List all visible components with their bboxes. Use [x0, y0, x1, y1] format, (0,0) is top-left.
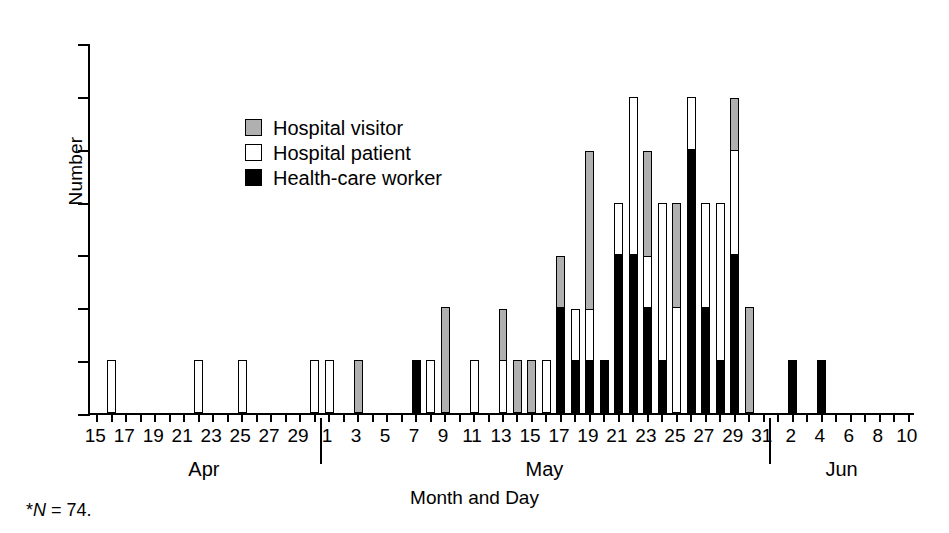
month-separator-jun	[769, 418, 771, 464]
footnote-rest: = 74.	[46, 500, 92, 520]
bar-segment-worker	[629, 254, 638, 413]
x-tick-may-19	[589, 413, 591, 422]
bar-segment-visitor	[556, 256, 565, 309]
x-tick-may-4	[372, 413, 374, 422]
legend-swatch-patient-icon	[245, 144, 262, 161]
x-tick-label-may-17: 17	[548, 426, 569, 445]
x-tick-apr-24	[227, 413, 229, 422]
bar-segment-visitor	[730, 98, 739, 151]
bar-may-13	[499, 307, 508, 413]
x-tick-may-25	[676, 413, 678, 422]
bar-segment-patient	[687, 97, 696, 150]
legend: Hospital visitor Hospital patient Health…	[245, 115, 442, 190]
x-tick-label-apr-29: 29	[288, 426, 309, 445]
bar-segment-worker	[716, 360, 725, 413]
bar-apr-30	[310, 360, 319, 413]
y-tick-2	[78, 308, 90, 310]
legend-label-visitor: Hospital visitor	[273, 118, 403, 138]
bar-segment-patient	[716, 203, 725, 362]
bar-segment-worker	[412, 360, 421, 413]
x-tick-may-23	[647, 413, 649, 422]
x-tick-label-may-21: 21	[606, 426, 627, 445]
x-tick-jun-8	[879, 413, 881, 422]
x-tick-label-may-27: 27	[693, 426, 714, 445]
x-tick-label-jun-8: 8	[872, 426, 883, 445]
bar-segment-visitor	[745, 307, 754, 413]
bar-segment-patient	[672, 307, 681, 413]
x-tick-apr-29	[299, 413, 301, 422]
bar-segment-patient	[629, 97, 638, 256]
x-tick-may-13	[502, 413, 504, 422]
x-tick-apr-18	[140, 413, 142, 422]
x-tick-label-jun-6: 6	[843, 426, 854, 445]
x-tick-jun-10	[908, 413, 910, 422]
bar-segment-patient	[701, 203, 710, 309]
bar-may-28	[716, 202, 725, 413]
y-tick-1	[78, 361, 90, 363]
bar-segment-worker	[701, 307, 710, 413]
bar-may-19	[585, 149, 594, 413]
x-tick-jun-4	[821, 413, 823, 422]
bar-segment-worker	[687, 149, 696, 413]
bar-segment-worker	[643, 307, 652, 413]
x-tick-label-apr-19: 19	[143, 426, 164, 445]
x-tick-jun-5	[835, 413, 837, 422]
x-tick-label-apr-21: 21	[172, 426, 193, 445]
y-axis-title: Number	[65, 101, 87, 241]
footnote-marker: *	[26, 500, 33, 520]
bar-may-7	[412, 360, 421, 413]
bar-segment-worker	[556, 307, 565, 413]
x-tick-apr-28	[285, 413, 287, 422]
bar-apr-22	[194, 360, 203, 413]
x-tick-label-may-23: 23	[635, 426, 656, 445]
x-tick-label-apr-17: 17	[114, 426, 135, 445]
bar-segment-worker	[614, 254, 623, 413]
x-tick-may-5	[386, 413, 388, 422]
y-tick-3	[78, 255, 90, 257]
bar-segment-patient	[470, 360, 479, 413]
bar-segment-patient	[730, 150, 739, 256]
bar-segment-patient	[542, 360, 551, 413]
x-tick-may-21	[618, 413, 620, 422]
x-tick-jun-1	[777, 413, 779, 422]
x-tick-may-11	[473, 413, 475, 422]
month-separator-may	[320, 418, 322, 464]
x-tick-apr-19	[154, 413, 156, 422]
x-tick-may-14	[516, 413, 518, 422]
month-label-jun: Jun	[825, 458, 857, 481]
x-tick-label-may-9: 9	[438, 426, 449, 445]
x-tick-may-3	[357, 413, 359, 422]
y-tick-5	[78, 150, 90, 152]
bar-may-11	[470, 360, 479, 413]
x-axis-title: Month and Day	[0, 487, 949, 509]
x-tick-may-29	[734, 413, 736, 422]
bar-may-3	[354, 360, 363, 413]
x-tick-jun-7	[864, 413, 866, 422]
bar-may-17	[556, 254, 565, 413]
x-tick-label-apr-25: 25	[230, 426, 251, 445]
bar-may-16	[542, 360, 551, 413]
bar-may-24	[658, 202, 667, 413]
bar-segment-worker	[600, 360, 609, 413]
bar-segment-visitor	[354, 360, 363, 413]
bar-segment-visitor	[585, 151, 594, 310]
bar-segment-worker	[585, 360, 594, 413]
x-tick-may-9	[444, 413, 446, 422]
y-tick-0	[78, 414, 90, 416]
bar-segment-patient	[585, 309, 594, 362]
x-tick-apr-20	[169, 413, 171, 422]
y-tick-4	[78, 203, 90, 205]
x-tick-label-may-15: 15	[519, 426, 540, 445]
x-tick-jun-6	[850, 413, 852, 422]
bar-may-15	[527, 360, 536, 413]
x-tick-label-may-25: 25	[664, 426, 685, 445]
legend-swatch-visitor-icon	[245, 119, 262, 136]
x-tick-label-may-29: 29	[722, 426, 743, 445]
bar-segment-patient	[310, 360, 319, 413]
x-tick-apr-21	[183, 413, 185, 422]
x-tick-apr-23	[212, 413, 214, 422]
bar-segment-patient	[325, 360, 334, 413]
bar-may-27	[701, 202, 710, 413]
x-tick-label-may-1: 1	[322, 426, 333, 445]
x-tick-may-31	[763, 413, 765, 422]
